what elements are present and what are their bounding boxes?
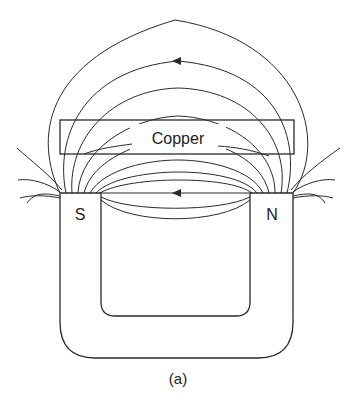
horseshoe-magnet xyxy=(60,193,293,358)
north-pole-label: N xyxy=(266,206,278,223)
south-pole-label: S xyxy=(75,206,86,223)
field-arrow-top-icon xyxy=(172,57,181,65)
copper-label: Copper xyxy=(152,130,205,147)
magnet-diagram: Copper S N (a) xyxy=(0,0,346,406)
figure-caption: (a) xyxy=(169,370,187,387)
